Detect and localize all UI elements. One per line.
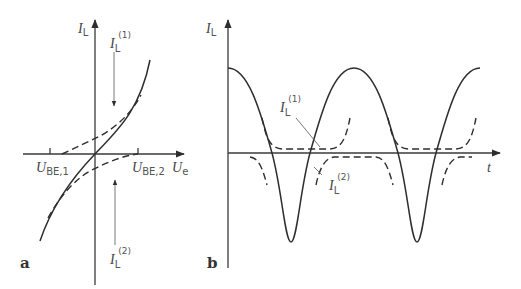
panel-b-current1-label: IL(1) (279, 94, 301, 118)
panel-a-y-label: IL (77, 21, 89, 38)
panel-a-current2-curve (48, 154, 138, 218)
tick-ube1-label: UBE,1 (36, 160, 69, 177)
panel-b-current2-label: IL(2) (328, 172, 350, 196)
panel-b-current2-curve (250, 157, 472, 185)
panel-a-current2-label: IL(2) (109, 246, 131, 270)
panel-b-label: b (207, 254, 218, 272)
figure-canvas: IL IL(1) UBE,1 UBE,2 Ue IL(2) a IL IL(1)… (0, 0, 521, 289)
panel-b-x-label: t (487, 160, 492, 175)
panel-a-current1-label: IL(1) (109, 30, 131, 54)
panel-b-total-current-curve (228, 68, 480, 242)
panel-a-label: a (20, 254, 30, 272)
panel-b-current1-curve (262, 118, 476, 149)
panel-a-current1-curve (62, 95, 141, 154)
panel-a-x-label: Ue (172, 160, 188, 177)
panel-b-y-label: IL (205, 21, 217, 38)
tick-ube2-label: UBE,2 (132, 160, 165, 177)
panel-a: IL IL(1) UBE,1 UBE,2 Ue IL(2) a (20, 20, 188, 285)
panel-b: IL IL(1) t IL(2) b (205, 20, 500, 272)
